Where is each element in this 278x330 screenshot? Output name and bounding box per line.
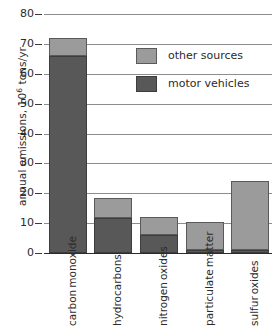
- legend-item-motor-vehicles: motor vehicles: [136, 73, 266, 94]
- x-tick-label-line: oxides: [248, 258, 261, 294]
- y-tick-mark: [35, 44, 42, 45]
- x-tick-label-line: particulate: [203, 267, 216, 326]
- x-tick-label-line: matter: [203, 230, 216, 268]
- bar-segment-motor-vehicles: [49, 56, 87, 253]
- bar-segment-motor-vehicles: [94, 218, 132, 253]
- bar-sulfur-oxides: [231, 181, 269, 253]
- y-tick-mark: [35, 74, 42, 75]
- y-axis-title-exponent: 6: [15, 88, 24, 93]
- y-tick-label: 60: [4, 68, 34, 79]
- x-tick-label-line: monoxide: [66, 234, 79, 288]
- bar-segment-other-sources: [49, 38, 87, 56]
- legend-label-other-sources: other sources: [168, 49, 243, 62]
- legend-swatch-motor-vehicles-icon: [136, 76, 157, 92]
- y-tick-mark: [35, 163, 42, 164]
- bar-segment-motor-vehicles: [231, 250, 269, 253]
- y-tick-label: 20: [4, 187, 34, 198]
- legend-swatch-other-sources-icon: [136, 48, 157, 64]
- y-tick-mark: [35, 253, 42, 254]
- x-tick-label-line: carbon: [66, 288, 79, 326]
- y-tick-mark: [35, 223, 42, 224]
- y-tick-label: 40: [4, 128, 34, 139]
- y-tick-label: 70: [4, 38, 34, 49]
- bar-segment-other-sources: [231, 181, 269, 250]
- x-tick-label-line: hydrocarbons: [111, 252, 124, 326]
- bar-segment-other-sources: [94, 198, 132, 218]
- y-tick-label: 30: [4, 157, 34, 168]
- legend-label-motor-vehicles: motor vehicles: [168, 77, 249, 90]
- y-tick-mark: [35, 14, 42, 15]
- gridline: [44, 14, 272, 15]
- x-tick-label-sulfur-oxides: sulfuroxides: [231, 258, 278, 292]
- y-tick-label: 10: [4, 217, 34, 228]
- y-tick-mark: [35, 193, 42, 194]
- x-tick-label-line: nitrogen: [157, 280, 170, 326]
- legend-item-other-sources: other sources: [136, 45, 266, 66]
- legend: other sources motor vehicles: [136, 45, 266, 101]
- bar-carbon-monoxide: [49, 38, 87, 253]
- y-tick-mark: [35, 104, 42, 105]
- y-tick-label: 80: [4, 8, 34, 19]
- y-tick-mark: [35, 134, 42, 135]
- x-tick-label-line: sulfur: [248, 294, 261, 326]
- x-tick-label-line: oxides: [157, 244, 170, 280]
- emissions-bar-chart: annual emissions, 106 tons/yr 0102030405…: [0, 0, 278, 330]
- bar-hydrocarbons: [94, 198, 132, 253]
- y-tick-label: 0: [4, 247, 34, 258]
- bar-segment-other-sources: [140, 217, 178, 235]
- y-tick-label: 50: [4, 98, 34, 109]
